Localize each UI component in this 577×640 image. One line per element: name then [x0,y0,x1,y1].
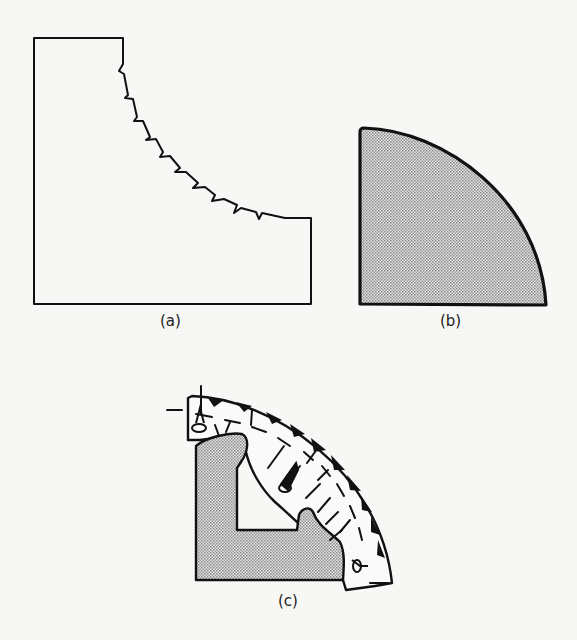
panel-a-shape [34,38,311,304]
panel-c-label: (c) [278,592,298,610]
panel-b-label: (b) [440,312,461,330]
panel-a-label: (a) [160,312,181,330]
figure-canvas [0,0,577,640]
panel-c-shape [167,386,392,590]
panel-b-shape [360,128,546,305]
